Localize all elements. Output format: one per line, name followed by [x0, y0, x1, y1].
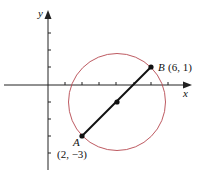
y-axis — [45, 10, 52, 170]
point-b — [148, 64, 153, 69]
point-a — [79, 133, 84, 138]
x-axis — [4, 82, 192, 89]
coordinate-diagram: y x B (6, 1) A (2, −3) — [0, 0, 203, 183]
midpoint — [114, 99, 119, 104]
y-axis-label: y — [37, 7, 43, 19]
x-axis-label: x — [182, 87, 188, 99]
point-a-name: A — [72, 136, 80, 148]
point-b-coords: (6, 1) — [168, 61, 192, 74]
point-b-name: B — [158, 61, 165, 73]
point-a-coords: (2, −3) — [57, 148, 87, 161]
